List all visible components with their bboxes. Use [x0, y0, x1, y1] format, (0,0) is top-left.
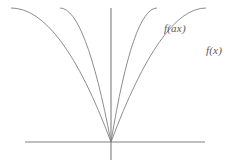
plot-area — [0, 0, 232, 165]
wide-curve-label: f(x) — [206, 44, 222, 56]
narrow-curve-label: f(ax) — [164, 22, 186, 34]
parabola-transformation-figure: f(ax) f(x) — [0, 0, 232, 165]
narrow-parabola-curve — [60, 8, 157, 142]
